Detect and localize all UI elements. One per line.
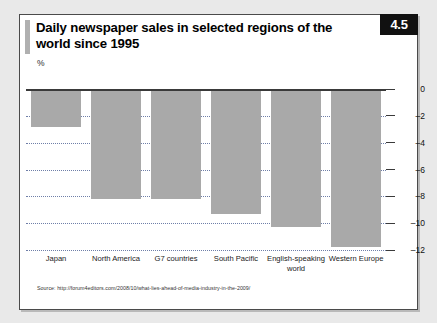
y-axis-tick-label: –10 bbox=[399, 218, 425, 228]
plot-area bbox=[26, 89, 386, 250]
y-axis-tick-label: 0 bbox=[399, 84, 425, 94]
y-axis-tick-label: –8 bbox=[399, 191, 425, 201]
y-axis-tick-label: –2 bbox=[399, 111, 425, 121]
bar-column bbox=[326, 89, 386, 250]
figure-number-badge: 4.5 bbox=[380, 14, 418, 35]
tick-mark bbox=[386, 196, 395, 197]
bar-north-america bbox=[91, 89, 141, 199]
tick-mark bbox=[386, 115, 395, 116]
bar-column bbox=[206, 89, 266, 250]
tick-mark bbox=[386, 89, 395, 90]
y-axis: 0–2–4–6–8–10–12 bbox=[386, 89, 437, 250]
page-title: Daily newspaper sales in selected region… bbox=[36, 20, 356, 51]
y-axis-tick-label: –12 bbox=[399, 245, 425, 255]
x-axis-tick-label: Japan bbox=[26, 254, 86, 282]
tick-mark bbox=[386, 142, 395, 143]
title-accent-bar bbox=[25, 20, 30, 54]
bar-column bbox=[266, 89, 326, 250]
tick-mark bbox=[386, 223, 395, 224]
gridline bbox=[26, 250, 386, 251]
figure-card: Daily newspaper sales in selected region… bbox=[19, 14, 418, 310]
x-axis-tick-label: North America bbox=[86, 254, 146, 282]
zero-axis-line bbox=[26, 89, 386, 91]
tick-mark bbox=[386, 169, 395, 170]
y-axis-unit-label: % bbox=[37, 58, 45, 68]
bar-column bbox=[86, 89, 146, 250]
source-note: Source: http://forum4editors.com/2008/10… bbox=[37, 285, 250, 291]
x-axis-labels: JapanNorth AmericaG7 countriesSouth Paci… bbox=[26, 254, 386, 282]
bar-column bbox=[26, 89, 86, 250]
x-axis-tick-label: G7 countries bbox=[146, 254, 206, 282]
bar-english-speaking-world bbox=[271, 89, 321, 227]
bar-western-europe bbox=[331, 89, 381, 247]
bar-series bbox=[26, 89, 386, 250]
y-axis-tick-label: –6 bbox=[399, 165, 425, 175]
bar-japan bbox=[31, 89, 81, 127]
x-axis-tick-label: Western Europe bbox=[326, 254, 386, 282]
x-axis-tick-label: English-speaking world bbox=[266, 254, 326, 282]
x-axis-tick-label: South Pacific bbox=[206, 254, 266, 282]
tick-mark bbox=[386, 250, 395, 251]
bar-south-pacific bbox=[211, 89, 261, 214]
y-axis-tick-label: –4 bbox=[399, 138, 425, 148]
figure-page: Daily newspaper sales in selected region… bbox=[0, 0, 437, 323]
bar-g7-countries bbox=[151, 89, 201, 199]
bar-column bbox=[146, 89, 206, 250]
